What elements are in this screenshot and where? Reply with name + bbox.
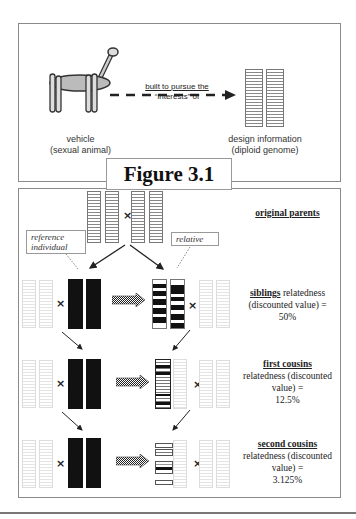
reference-chromosome-a <box>68 359 83 409</box>
reference-chromosome-b <box>86 359 101 409</box>
cousin1-mate-chromosome-a <box>22 360 36 408</box>
reference-chromosome-a <box>68 438 83 488</box>
cross-symbol: × <box>56 298 65 309</box>
cousin2-mate2-chromosome-a <box>199 440 213 488</box>
second-cousins-relatedness: second cousins relatedness (discounted v… <box>240 438 335 486</box>
second-cousin-fragment-4 <box>155 480 173 485</box>
cousin1-mate2-chromosome-b <box>216 360 230 408</box>
sibling-mate-chromosome-a <box>22 280 36 328</box>
cousin2-mate2-chromosome-b <box>216 440 230 488</box>
sibling-chromosome-b <box>170 279 185 329</box>
sibling-mate2-chromosome-a <box>199 280 213 328</box>
page-divider <box>0 512 356 514</box>
second-cousin-fragment-3 <box>155 461 173 474</box>
second-cousin-fragment-2 <box>155 449 173 456</box>
siblings-relatedness: siblings relatedness (discounted value) … <box>240 287 335 323</box>
inheritance-arrow-icon <box>112 293 146 307</box>
cousin1-mate-chromosome-b <box>39 360 53 408</box>
first-cousins-relatedness: first cousins relatedness (discounted va… <box>240 358 335 406</box>
reference-chromosome-b <box>86 438 101 488</box>
second-cousin-ghost-chromosome <box>173 440 187 488</box>
sibling-chromosome-a <box>152 279 167 329</box>
cousin1-mate2-chromosome-a <box>199 360 213 408</box>
reference-chromosome-a <box>68 279 83 329</box>
original-parents-label: original parents <box>240 207 335 219</box>
cross-symbol: × <box>188 300 197 311</box>
reference-chromosome-b <box>86 279 101 329</box>
sibling-mate-chromosome-b <box>39 280 53 328</box>
sibling-mate2-chromosome-b <box>216 280 230 328</box>
first-cousin-chromosome-stripes <box>155 359 171 409</box>
first-cousin-ghost-chromosome <box>173 359 187 409</box>
inheritance-arrow-icon <box>116 454 150 468</box>
cross-symbol: × <box>56 458 65 469</box>
cousin2-mate-chromosome-a <box>22 440 36 488</box>
cross-symbol: × <box>56 378 65 389</box>
cousin2-mate-chromosome-b <box>39 440 53 488</box>
second-cousin-fragment-1 <box>155 443 173 448</box>
inheritance-arrow-icon <box>116 375 150 389</box>
